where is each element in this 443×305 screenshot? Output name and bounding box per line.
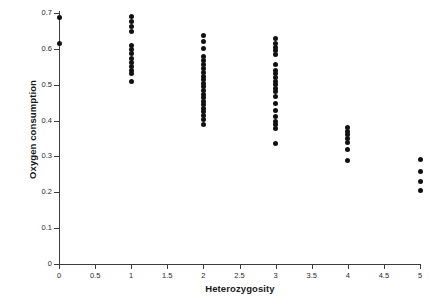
x-axis-tick-label: 2	[183, 271, 223, 280]
data-point	[201, 95, 206, 100]
data-point	[418, 179, 423, 184]
scatter-plot-figure: Oxygen consumption Heterozygosity 00.10.…	[0, 0, 443, 305]
data-point	[273, 94, 278, 99]
data-point	[273, 68, 278, 73]
data-point	[201, 84, 206, 89]
data-point	[418, 188, 423, 193]
data-point	[273, 79, 278, 84]
data-point	[201, 106, 206, 111]
data-point	[201, 88, 206, 93]
data-point	[273, 71, 278, 76]
data-point	[345, 132, 350, 137]
data-point	[201, 102, 206, 107]
y-axis-tick-label: 0.3	[12, 151, 52, 160]
data-point	[201, 122, 206, 127]
data-point	[201, 66, 206, 71]
data-point	[273, 141, 278, 146]
x-axis-tick-label: 1.5	[147, 271, 187, 280]
data-point	[201, 77, 206, 82]
data-point	[201, 70, 206, 75]
data-point	[273, 45, 278, 50]
data-point	[129, 68, 134, 73]
y-axis-tick-label: 0.4	[12, 116, 52, 125]
x-axis-tick-label: 3	[256, 271, 296, 280]
y-axis-tick-mark	[54, 192, 59, 193]
data-point	[201, 81, 206, 86]
data-point	[129, 47, 134, 52]
x-axis-tick-mark	[276, 264, 277, 269]
data-point	[201, 58, 206, 63]
data-point	[201, 113, 206, 118]
data-point	[129, 60, 134, 65]
data-point	[273, 75, 278, 80]
data-point	[273, 41, 278, 46]
data-point	[129, 79, 134, 84]
data-point	[201, 99, 206, 104]
data-point	[129, 71, 134, 76]
data-point	[201, 117, 206, 122]
x-axis-tick-label: 1	[111, 271, 151, 280]
data-point	[273, 108, 278, 113]
x-axis-tick-mark	[95, 264, 96, 269]
x-axis-tick-mark	[167, 264, 168, 269]
data-point	[273, 119, 278, 124]
data-point	[201, 109, 206, 114]
data-point	[273, 52, 278, 57]
y-axis-tick-mark	[54, 85, 59, 86]
data-point	[201, 62, 206, 67]
data-point	[345, 136, 350, 141]
x-axis-tick-mark	[312, 264, 313, 269]
x-axis-tick-mark	[384, 264, 385, 269]
y-axis-tick-mark	[54, 228, 59, 229]
data-point	[273, 86, 278, 91]
data-point	[273, 36, 278, 41]
data-point	[201, 92, 206, 97]
data-point	[201, 74, 206, 79]
x-axis-tick-label: 3.5	[292, 271, 332, 280]
data-point	[201, 54, 206, 59]
data-point	[129, 19, 134, 24]
x-axis-tick-label: 4	[328, 271, 368, 280]
data-point	[345, 158, 350, 163]
data-point	[129, 56, 134, 61]
y-axis-tick-label: 0.2	[12, 187, 52, 196]
x-axis-tick-label: 0	[39, 271, 79, 280]
data-point	[273, 114, 278, 119]
y-axis-tick-label: 0	[12, 259, 52, 268]
x-axis-tick-label: 4.5	[364, 271, 404, 280]
data-point	[345, 140, 350, 145]
data-point	[273, 101, 278, 106]
x-axis-tick-mark	[420, 264, 421, 269]
x-axis-tick-mark	[203, 264, 204, 269]
data-point	[345, 125, 350, 130]
data-point	[345, 147, 350, 152]
x-axis-tick-label: 0.5	[75, 271, 115, 280]
data-point	[418, 169, 423, 174]
x-axis-tick-mark	[348, 264, 349, 269]
y-axis-tick-label: 0.5	[12, 80, 52, 89]
data-point	[345, 129, 350, 134]
data-point	[273, 122, 278, 127]
data-point	[273, 48, 278, 53]
y-axis-tick-mark	[54, 13, 59, 14]
x-axis-tick-label: 5	[400, 271, 440, 280]
y-axis-tick-mark	[54, 156, 59, 157]
data-point	[201, 46, 206, 51]
plot-data-area	[0, 0, 443, 305]
y-axis-tick-label: 0.1	[12, 223, 52, 232]
data-point	[201, 39, 206, 44]
data-point	[129, 43, 134, 48]
y-axis-tick-mark	[54, 49, 59, 50]
data-point	[129, 14, 134, 19]
data-point	[129, 64, 134, 69]
data-point	[129, 29, 134, 34]
data-point	[418, 157, 423, 162]
data-point	[273, 82, 278, 87]
data-point	[129, 51, 134, 56]
y-axis-tick-label: 0.7	[12, 8, 52, 17]
data-point	[273, 62, 278, 67]
y-axis-tick-mark	[54, 121, 59, 122]
x-axis-tick-mark	[131, 264, 132, 269]
data-point	[201, 33, 206, 38]
x-axis-tick-mark	[59, 264, 60, 269]
